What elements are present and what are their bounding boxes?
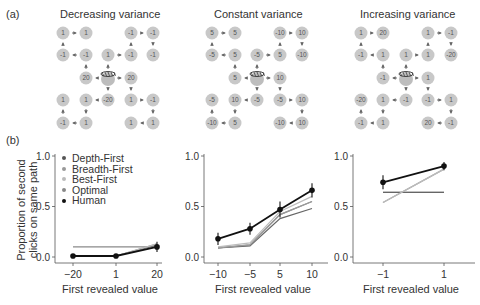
x-tick-label: 5: [277, 268, 283, 280]
human-data-point: [113, 253, 119, 259]
x-axis-label-left: First revealed value: [62, 283, 158, 295]
human-data-point: [247, 226, 253, 232]
series-depth-first: [218, 209, 312, 248]
y-tick-label: 0.0: [334, 252, 348, 263]
human-data-point: [70, 253, 76, 259]
x-tick-label: −10: [209, 268, 227, 280]
legend: Depth-First Breadth-First Best-First Opt…: [60, 153, 133, 206]
x-tick-label: 20: [151, 268, 163, 280]
y-axis-label: Proportion of second clicks on same path: [15, 145, 39, 275]
y-tick-label: 1.0: [185, 151, 199, 162]
human-data-point: [154, 244, 160, 250]
x-tick-label: −20: [64, 268, 82, 280]
series-best-first: [218, 196, 312, 247]
legend-item-depth-first: Depth-First: [60, 153, 133, 164]
human-data-point: [441, 163, 447, 169]
x-tick-label: −1: [377, 268, 389, 280]
x-tick-label: 1: [441, 268, 447, 280]
x-tick-label: −5: [244, 268, 256, 280]
human-data-point: [277, 207, 283, 213]
x-axis-label-right: First revealed value: [363, 283, 459, 295]
series-optimal: [218, 201, 312, 247]
human-data-point: [309, 188, 315, 194]
y-tick-label: 1.0: [334, 151, 348, 162]
y-tick-label: 0.5: [334, 201, 348, 212]
x-tick-label: 1: [113, 268, 119, 280]
human-data-point: [380, 179, 386, 185]
x-axis-label-middle: First revealed value: [215, 283, 311, 295]
human-data-point: [215, 236, 221, 242]
chart-1: 0.00.51.0−10−5510: [185, 151, 328, 281]
legend-item-human: Human: [60, 195, 133, 206]
series-breadth-first: [218, 201, 312, 247]
chart-2: 0.00.51.0−11: [334, 151, 475, 281]
x-tick-label: 10: [306, 268, 318, 280]
y-tick-label: 0.0: [185, 252, 199, 263]
y-tick-label: 0.5: [185, 201, 199, 212]
